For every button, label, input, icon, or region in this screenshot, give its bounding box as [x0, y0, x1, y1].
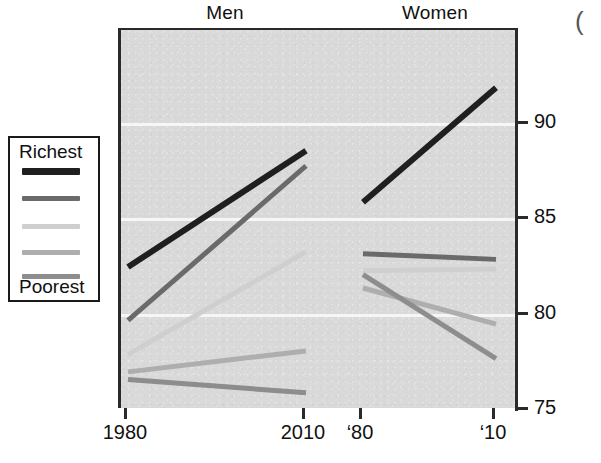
- x-tick-0: [124, 408, 127, 419]
- y-axis-line: [515, 28, 518, 411]
- legend-swatch-middle-quintile: [22, 224, 80, 229]
- corner-paren-mark: (: [575, 8, 584, 34]
- series-line-fourth-men: [128, 351, 306, 372]
- y-tick-label-85: 85: [534, 206, 556, 226]
- series-line-middle-men: [128, 252, 306, 355]
- y-tick-80: [518, 312, 528, 315]
- legend-swatch-fourth-quintile: [22, 250, 80, 255]
- series-line-second-women: [363, 254, 496, 260]
- x-tick-label-2: ‘80: [315, 421, 405, 443]
- y-tick-label-90: 90: [534, 111, 556, 131]
- x-tick-label-3: ‘10: [448, 421, 538, 443]
- y-tick-label-75: 75: [534, 397, 556, 417]
- series-line-richest-women: [363, 88, 496, 202]
- y-tick-label-80: 80: [534, 302, 556, 322]
- x-tick-2: [359, 408, 362, 419]
- panel-title-men: Men: [165, 2, 285, 24]
- series-line-middle-women: [363, 269, 496, 271]
- legend-swatch-second-quintile: [22, 196, 80, 201]
- chart-figure: Men Women 90858075 19802010‘80‘10 Riches…: [0, 0, 601, 463]
- legend: Richest Poorest: [8, 136, 100, 302]
- y-tick-75: [518, 407, 528, 410]
- legend-swatch-richest-quintile: [22, 168, 80, 175]
- plot-area: [118, 28, 515, 408]
- x-tick-label-0: 1980: [80, 421, 170, 443]
- panel-title-women: Women: [370, 2, 500, 24]
- y-tick-90: [518, 121, 528, 124]
- legend-label-richest: Richest: [19, 141, 82, 163]
- legend-label-poorest: Poorest: [19, 276, 84, 298]
- x-tick-1: [302, 408, 305, 419]
- series-line-richest-men: [128, 151, 306, 267]
- series-line-poorest-men: [128, 379, 306, 392]
- series-line-second-men: [128, 166, 306, 320]
- y-tick-85: [518, 216, 528, 219]
- series-lines: [121, 30, 515, 408]
- x-tick-3: [492, 408, 495, 419]
